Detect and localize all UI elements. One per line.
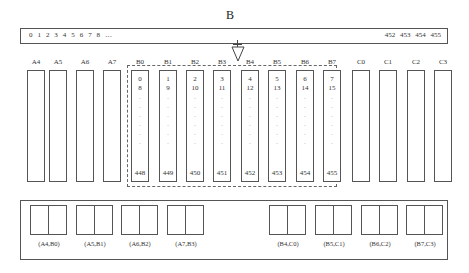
pair-label: (B5,C1) — [312, 240, 356, 247]
column-b7: 715· · · · · ·455 — [323, 70, 341, 182]
column-b1: 19· · · · · ·449 — [159, 70, 177, 182]
column-label: B4 — [240, 58, 260, 66]
column-start-indices: 513 — [269, 75, 285, 93]
column-start-indices: 412 — [242, 75, 258, 93]
pair-box — [406, 205, 443, 235]
column-c3 — [434, 70, 452, 182]
column-start-indices: 19 — [160, 75, 176, 93]
column-b3: 311· · · · · ·451 — [213, 70, 231, 182]
column-label: B0 — [130, 58, 150, 66]
memory-bar-left-indices: 0 1 2 3 4 5 6 7 8 … — [29, 31, 114, 39]
pair-box — [361, 205, 398, 235]
column-label: B6 — [295, 58, 315, 66]
column-label: C3 — [433, 58, 453, 66]
column-end-index: 454 — [297, 169, 313, 177]
column-c2 — [407, 70, 425, 182]
column-b2: 210· · · · · ·450 — [186, 70, 204, 182]
pair-label: (B7,C3) — [403, 240, 447, 247]
column-b0: 08· · · · · ·448 — [131, 70, 149, 182]
column-end-index: 455 — [324, 169, 340, 177]
column-b5: 513· · · · · ·453 — [268, 70, 286, 182]
pair-label: (A7,B3) — [164, 240, 208, 247]
column-c0 — [352, 70, 370, 182]
column-start-indices: 210 — [187, 75, 203, 93]
pair-label: (A5,B1) — [73, 240, 117, 247]
ellipsis-dots: · · · · · · — [187, 95, 203, 149]
column-label: A4 — [26, 58, 46, 66]
pair-label: (B6,C2) — [358, 240, 402, 247]
column-label: B3 — [212, 58, 232, 66]
column-label: C1 — [378, 58, 398, 66]
column-end-index: 449 — [160, 169, 176, 177]
column-end-index: 448 — [132, 169, 148, 177]
pointer-tick — [233, 44, 242, 45]
ellipsis-dots: · · · · · · — [269, 95, 285, 149]
diagram-title: B — [226, 8, 234, 23]
column-a4 — [27, 70, 45, 182]
column-end-index: 451 — [214, 169, 230, 177]
column-start-indices: 311 — [214, 75, 230, 93]
pair-box — [30, 205, 67, 235]
pair-box — [121, 205, 158, 235]
column-label: B7 — [322, 58, 342, 66]
column-c1 — [379, 70, 397, 182]
pair-label: (B4,C0) — [266, 240, 310, 247]
column-a5 — [49, 70, 67, 182]
column-start-indices: 715 — [324, 75, 340, 93]
pair-box — [269, 205, 306, 235]
pair-box — [167, 205, 204, 235]
ellipsis-dots: · · · · · · — [297, 95, 313, 149]
ellipsis-dots: · · · · · · — [132, 95, 148, 149]
column-label: B5 — [267, 58, 287, 66]
column-label: B2 — [185, 58, 205, 66]
pair-box — [76, 205, 113, 235]
pair-box — [315, 205, 352, 235]
column-end-index: 450 — [187, 169, 203, 177]
memory-bar-right-indices: 452 453 454 455 — [385, 31, 441, 39]
column-end-index: 453 — [269, 169, 285, 177]
column-label: C2 — [406, 58, 426, 66]
column-label: A7 — [102, 58, 122, 66]
ellipsis-dots: · · · · · · — [242, 95, 258, 149]
pair-label: (A6,B2) — [118, 240, 162, 247]
column-b6: 614· · · · · ·454 — [296, 70, 314, 182]
column-a6 — [76, 70, 94, 182]
ellipsis-dots: · · · · · · — [160, 95, 176, 149]
column-end-index: 452 — [242, 169, 258, 177]
pair-label: (A4,B0) — [27, 240, 71, 247]
column-b4: 412· · · · · ·452 — [241, 70, 259, 182]
ellipsis-dots: · · · · · · — [324, 95, 340, 149]
column-label: B1 — [158, 58, 178, 66]
memory-bar-b: 0 1 2 3 4 5 6 7 8 … 452 453 454 455 — [20, 28, 448, 44]
column-label: A5 — [48, 58, 68, 66]
column-start-indices: 614 — [297, 75, 313, 93]
column-label: A6 — [75, 58, 95, 66]
column-label: C0 — [351, 58, 371, 66]
ellipsis-dots: · · · · · · — [214, 95, 230, 149]
column-a7 — [103, 70, 121, 182]
column-start-indices: 08 — [132, 75, 148, 93]
